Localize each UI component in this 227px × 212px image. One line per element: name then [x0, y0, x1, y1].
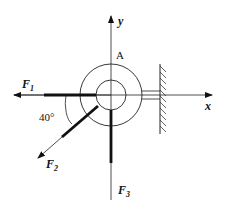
y-axis-label: y — [116, 14, 124, 28]
x-axis-label: x — [204, 99, 211, 113]
force-f3-label: F3 — [117, 183, 130, 199]
angle-label: 40° — [39, 111, 54, 123]
force-diagram: y x A 40° F1 F2 F3 — [0, 0, 227, 212]
point-label: A — [116, 49, 124, 61]
angle-arc — [65, 95, 72, 124]
force-f1-label: F1 — [21, 77, 34, 93]
force-f2-arrow — [38, 137, 62, 158]
force-f2-label: F2 — [45, 157, 58, 173]
fixed-wall — [160, 64, 166, 134]
force-f2-rod — [62, 106, 98, 137]
